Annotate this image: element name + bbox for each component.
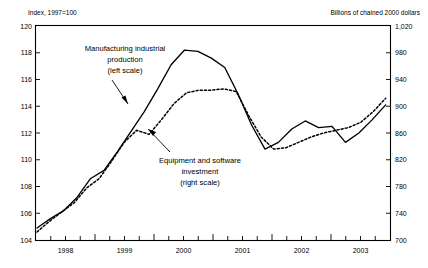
right-axis-tick-label: 1,020 bbox=[395, 23, 413, 30]
x-axis-tick-label: 2002 bbox=[294, 247, 310, 254]
left-axis-caption: Index, 1997=100 bbox=[28, 9, 77, 16]
right-axis-tick-label: 700 bbox=[395, 237, 407, 244]
series-manufacturing-industrial-production bbox=[37, 50, 386, 228]
x-axis-tick-label: 2000 bbox=[176, 247, 192, 254]
left-axis-tick-label: 112 bbox=[21, 130, 32, 137]
annotation-equipment-line-1: Equipment and software bbox=[159, 156, 241, 165]
left-axis-tick-label: 116 bbox=[21, 76, 32, 83]
annotation-manufacturing-line-3: (left scale) bbox=[107, 66, 142, 75]
x-axis-tick-label: 2001 bbox=[235, 247, 251, 254]
x-axis-tick-label: 1999 bbox=[117, 247, 133, 254]
x-axis-tick-label: 1998 bbox=[58, 247, 74, 254]
x-axis-tick-labels: 199819992000200120022003 bbox=[58, 247, 369, 254]
economic-indicators-line-chart: Index, 1997=100 Billions of chained 2000… bbox=[0, 0, 428, 268]
annotation-equipment-line-2: investment bbox=[182, 167, 220, 176]
annotation-manufacturing-arrowhead bbox=[122, 96, 129, 105]
left-axis-tick-label: 104 bbox=[20, 237, 32, 244]
left-axis-tick-label: 120 bbox=[20, 23, 32, 30]
annotation-manufacturing-line-2: production bbox=[107, 55, 142, 64]
right-axis-tick-label: 780 bbox=[395, 183, 407, 190]
chart-container: Index, 1997=100 Billions of chained 2000… bbox=[0, 0, 428, 268]
x-axis-tick-label: 2003 bbox=[353, 247, 369, 254]
annotation-equipment-line-3: (right scale) bbox=[180, 178, 220, 187]
annotation-manufacturing-line-1: Manufacturing industrial bbox=[85, 44, 166, 53]
right-axis-ticks bbox=[386, 53, 390, 214]
right-axis-tick-labels: 7007407808208609009409801,020 bbox=[395, 23, 413, 244]
right-axis-tick-label: 940 bbox=[395, 76, 407, 83]
right-axis-tick-label: 860 bbox=[395, 130, 407, 137]
right-axis-tick-label: 820 bbox=[395, 156, 407, 163]
right-axis-caption: Billions of chained 2000 dollars bbox=[330, 9, 420, 16]
left-axis-tick-label: 106 bbox=[20, 210, 32, 217]
left-axis-ticks bbox=[36, 53, 40, 214]
x-axis-ticks bbox=[51, 234, 376, 240]
right-axis-tick-label: 740 bbox=[395, 210, 407, 217]
left-axis-tick-labels: 104106108110112114116118120 bbox=[20, 23, 32, 244]
left-axis-tick-label: 118 bbox=[21, 49, 32, 56]
right-axis-tick-label: 980 bbox=[395, 49, 407, 56]
left-axis-tick-label: 108 bbox=[20, 183, 32, 190]
left-axis-tick-label: 110 bbox=[21, 156, 32, 163]
annotation-equipment: Equipment and software investment (right… bbox=[148, 129, 241, 187]
right-axis-tick-label: 900 bbox=[395, 103, 407, 110]
left-axis-tick-label: 114 bbox=[21, 103, 32, 110]
